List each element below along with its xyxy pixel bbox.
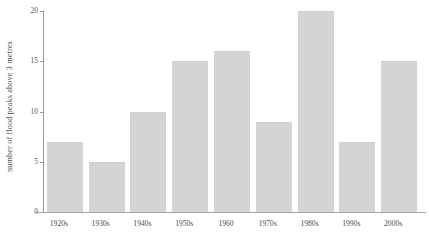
x-axis-line — [36, 212, 426, 213]
bar-group — [172, 11, 208, 212]
bar[interactable] — [256, 122, 292, 212]
bar[interactable] — [381, 61, 417, 212]
y-axis-title: number of flood peaks above 3 metres — [0, 0, 18, 212]
bar[interactable] — [172, 61, 208, 212]
bars-layer — [44, 11, 420, 212]
y-axis-tick-mark — [40, 212, 44, 213]
bar[interactable] — [89, 162, 125, 212]
bar[interactable] — [298, 11, 334, 212]
x-axis-tick-labels: 1920s1930s1940s1950s19601970s1980s1990s2… — [44, 219, 420, 235]
y-axis-tick: 20 — [24, 11, 44, 12]
bar-group — [298, 11, 334, 212]
y-axis-tick-label: 20 — [31, 6, 38, 15]
bar-group — [381, 11, 417, 212]
y-axis-title-label: number of flood peaks above 3 metres — [5, 41, 14, 172]
bar-group — [214, 11, 250, 212]
bar[interactable] — [130, 112, 166, 213]
y-axis-tick-label: 5 — [34, 157, 38, 166]
bar-chart-figure: number of flood peaks above 3 metres 051… — [0, 0, 429, 244]
y-axis-tick: 10 — [24, 112, 44, 113]
bar-group — [130, 11, 166, 212]
bar[interactable] — [47, 142, 83, 212]
bar[interactable] — [214, 51, 250, 212]
y-axis-tick: 0 — [24, 212, 44, 213]
y-axis-tick: 5 — [24, 162, 44, 163]
bar-group — [256, 11, 292, 212]
x-axis-tick-label: 2000s — [369, 219, 417, 228]
y-axis-tick-label: 0 — [34, 207, 38, 216]
bar-group — [339, 11, 375, 212]
bar-group — [89, 11, 125, 212]
y-axis-tick-label: 10 — [31, 107, 38, 116]
y-axis-tick: 15 — [24, 61, 44, 62]
bar-group — [47, 11, 83, 212]
y-axis-tick-label: 15 — [31, 56, 38, 65]
bar[interactable] — [339, 142, 375, 212]
